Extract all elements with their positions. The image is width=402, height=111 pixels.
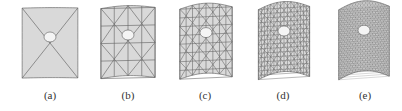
label-a: (a) [20,89,80,101]
mesh-hole [200,28,212,38]
mesh-edge [258,76,309,79]
label-d: (d) [253,89,313,101]
mesh-edge [180,77,232,79]
label-c: (c) [175,89,235,101]
mesh-hole [278,26,290,36]
label-b: (b) [98,89,158,101]
mesh-d [248,0,320,88]
mesh-c [170,0,242,88]
mesh-edge [339,76,390,80]
mesh-edges [339,1,390,80]
mesh-b [92,0,164,88]
mesh-e [328,0,400,88]
mesh-hole [122,30,134,40]
label-e: (e) [335,89,395,101]
mesh-hole [44,32,56,42]
mesh-a [14,0,86,88]
mesh-hole [358,25,370,35]
